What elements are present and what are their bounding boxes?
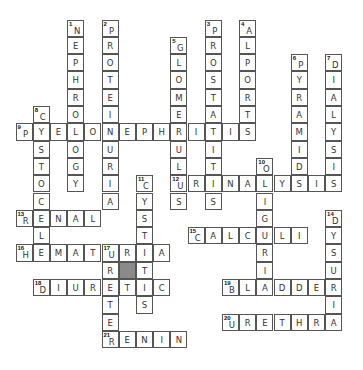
crossword-cell[interactable]: 5G <box>170 37 187 54</box>
crossword-cell[interactable]: O <box>67 106 84 123</box>
crossword-cell[interactable]: E <box>102 314 119 331</box>
crossword-cell[interactable]: Y <box>136 193 153 210</box>
crossword-cell[interactable]: T <box>205 123 222 140</box>
crossword-cell[interactable]: O <box>102 54 119 71</box>
crossword-cell[interactable]: Y <box>33 123 50 140</box>
crossword-cell[interactable]: S <box>170 193 187 210</box>
crossword-cell[interactable]: T <box>119 279 136 296</box>
crossword-cell[interactable]: R <box>308 314 325 331</box>
crossword-cell[interactable]: E <box>170 106 187 123</box>
crossword-cell[interactable]: Y <box>274 175 291 192</box>
crossword-cell[interactable]: R <box>188 175 205 192</box>
crossword-cell[interactable]: 17U <box>102 244 119 261</box>
crossword-cell[interactable]: N <box>170 331 187 348</box>
crossword-cell[interactable]: R <box>102 37 119 54</box>
crossword-cell[interactable]: S <box>205 193 222 210</box>
crossword-cell[interactable]: L <box>170 54 187 71</box>
crossword-cell[interactable]: 21R <box>102 331 119 348</box>
crossword-cell[interactable]: L <box>256 175 273 192</box>
crossword-cell[interactable]: 7D <box>325 54 342 71</box>
crossword-cell[interactable]: R <box>205 37 222 54</box>
crossword-cell[interactable]: S <box>136 296 153 313</box>
crossword-cell[interactable]: I <box>325 71 342 88</box>
crossword-cell[interactable]: L <box>84 210 101 227</box>
crossword-cell[interactable]: U <box>256 227 273 244</box>
crossword-cell[interactable]: E <box>119 123 136 140</box>
crossword-cell[interactable]: U <box>67 279 84 296</box>
crossword-cell[interactable]: C <box>33 193 50 210</box>
crossword-cell[interactable]: R <box>84 279 101 296</box>
crossword-cell[interactable]: L <box>33 227 50 244</box>
crossword-cell[interactable]: P <box>239 54 256 71</box>
crossword-cell[interactable]: 20U <box>222 314 239 331</box>
crossword-cell[interactable]: I <box>102 175 119 192</box>
crossword-cell[interactable]: 12U <box>170 175 187 192</box>
crossword-cell[interactable]: 16H <box>16 244 33 261</box>
crossword-cell[interactable]: E <box>33 244 50 261</box>
crossword-cell[interactable]: Y <box>67 175 84 192</box>
crossword-cell[interactable]: I <box>325 296 342 313</box>
crossword-cell[interactable]: H <box>291 314 308 331</box>
crossword-cell[interactable]: R <box>239 89 256 106</box>
crossword-cell[interactable]: H <box>67 71 84 88</box>
crossword-cell[interactable]: O <box>67 141 84 158</box>
crossword-cell[interactable]: U <box>102 141 119 158</box>
crossword-cell[interactable]: L <box>239 279 256 296</box>
crossword-cell[interactable]: 15C <box>188 227 205 244</box>
crossword-cell[interactable]: Y <box>325 227 342 244</box>
crossword-cell[interactable]: M <box>50 244 67 261</box>
crossword-cell[interactable]: E <box>67 37 84 54</box>
crossword-cell[interactable]: T <box>102 71 119 88</box>
crossword-cell[interactable]: 2P <box>102 20 119 37</box>
crossword-cell[interactable]: 13R <box>16 210 33 227</box>
crossword-cell[interactable]: 1N <box>67 20 84 37</box>
crossword-cell[interactable]: I <box>50 279 67 296</box>
crossword-cell[interactable]: I <box>256 262 273 279</box>
crossword-cell[interactable]: R <box>102 158 119 175</box>
crossword-cell[interactable]: A <box>205 227 222 244</box>
crossword-cell[interactable]: O <box>205 54 222 71</box>
crossword-cell[interactable]: I <box>136 279 153 296</box>
crossword-cell[interactable]: C <box>153 279 170 296</box>
crossword-cell[interactable]: R <box>67 89 84 106</box>
crossword-cell[interactable]: A <box>325 89 342 106</box>
crossword-cell[interactable]: I <box>205 175 222 192</box>
crossword-cell[interactable]: I <box>308 175 325 192</box>
crossword-cell[interactable]: R <box>119 244 136 261</box>
crossword-cell[interactable]: M <box>170 89 187 106</box>
crossword-cell[interactable]: E <box>256 314 273 331</box>
crossword-cell[interactable]: L <box>239 37 256 54</box>
crossword-cell[interactable]: T <box>205 158 222 175</box>
crossword-cell[interactable]: I <box>153 331 170 348</box>
crossword-cell[interactable]: O <box>239 71 256 88</box>
crossword-cell[interactable]: S <box>239 123 256 140</box>
crossword-cell[interactable]: A <box>256 279 273 296</box>
crossword-cell[interactable]: P <box>136 123 153 140</box>
crossword-cell[interactable]: 18D <box>33 279 50 296</box>
crossword-cell[interactable]: Y <box>325 123 342 140</box>
crossword-cell[interactable]: S <box>205 71 222 88</box>
crossword-cell[interactable]: E <box>308 279 325 296</box>
crossword-cell[interactable]: U <box>325 262 342 279</box>
crossword-cell[interactable]: A <box>67 210 84 227</box>
crossword-cell[interactable]: E <box>102 89 119 106</box>
crossword-cell[interactable]: T <box>33 158 50 175</box>
crossword-cell[interactable]: I <box>102 106 119 123</box>
crossword-cell[interactable]: C <box>239 227 256 244</box>
crossword-cell[interactable]: L <box>325 106 342 123</box>
crossword-cell[interactable]: E <box>50 123 67 140</box>
crossword-cell[interactable]: 11C <box>136 175 153 192</box>
crossword-cell[interactable]: A <box>153 244 170 261</box>
crossword-cell[interactable]: 3P <box>205 20 222 37</box>
crossword-cell[interactable]: S <box>291 175 308 192</box>
crossword-cell[interactable]: A <box>102 193 119 210</box>
crossword-cell[interactable]: P <box>67 54 84 71</box>
crossword-cell[interactable]: I <box>256 193 273 210</box>
crossword-cell[interactable]: T <box>274 314 291 331</box>
crossword-cell[interactable]: R <box>170 123 187 140</box>
crossword-cell[interactable]: T <box>102 296 119 313</box>
crossword-cell[interactable]: L <box>170 158 187 175</box>
crossword-cell[interactable]: N <box>222 175 239 192</box>
crossword-cell[interactable]: S <box>325 175 342 192</box>
crossword-cell[interactable]: A <box>67 244 84 261</box>
